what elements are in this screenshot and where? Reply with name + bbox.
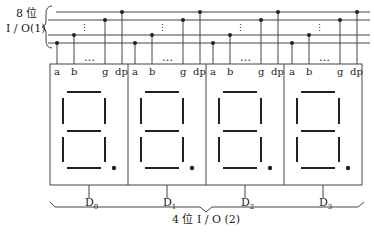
bus-label-bits: 8 位 bbox=[16, 8, 38, 19]
seven-segment-digit-2 bbox=[219, 92, 261, 168]
pin-a: a bbox=[54, 67, 60, 77]
seven-segment-digit-0 bbox=[63, 92, 105, 168]
ellipsis-vertical: ⋮ bbox=[236, 24, 245, 33]
bottom-io-label: 4 位 I / O (2) bbox=[172, 214, 240, 225]
ellipsis-horizontal: … bbox=[319, 52, 330, 63]
digit-label-d0: D0 bbox=[85, 197, 98, 211]
ellipsis-vertical: ⋮ bbox=[158, 24, 167, 33]
pin-b: b bbox=[306, 67, 312, 77]
digit-label-d3: D3 bbox=[319, 197, 332, 211]
pin-g: g bbox=[258, 67, 264, 77]
digit-label-d2: D2 bbox=[241, 197, 254, 211]
pin-dp: dp bbox=[271, 67, 284, 77]
pin-a: a bbox=[289, 67, 295, 77]
ellipsis-vertical: ⋮ bbox=[315, 24, 324, 33]
ellipsis-horizontal: … bbox=[162, 52, 173, 63]
pin-a: a bbox=[132, 67, 138, 77]
pin-g: g bbox=[102, 67, 108, 77]
ellipsis-horizontal: … bbox=[240, 52, 251, 63]
decimal-point-2 bbox=[268, 166, 272, 170]
ellipsis-horizontal: … bbox=[84, 52, 95, 63]
seven-segment-digit-3 bbox=[297, 92, 339, 168]
pin-b: b bbox=[227, 67, 233, 77]
decimal-point-3 bbox=[346, 166, 350, 170]
pin-dp: dp bbox=[350, 67, 363, 77]
decimal-point-1 bbox=[190, 166, 194, 170]
diagram-canvas bbox=[0, 0, 374, 232]
seven-segment-digit-1 bbox=[141, 92, 183, 168]
pin-a: a bbox=[210, 67, 216, 77]
pin-b: b bbox=[149, 67, 155, 77]
ellipsis-vertical: ⋮ bbox=[80, 24, 89, 33]
pin-g: g bbox=[180, 67, 186, 77]
bus-label-io: I / O(1) bbox=[6, 23, 46, 34]
pin-b: b bbox=[71, 67, 77, 77]
digit-label-d1: D1 bbox=[163, 197, 176, 211]
pin-dp: dp bbox=[115, 67, 128, 77]
pin-g: g bbox=[337, 67, 343, 77]
decimal-point-0 bbox=[112, 166, 116, 170]
pin-dp: dp bbox=[193, 67, 206, 77]
